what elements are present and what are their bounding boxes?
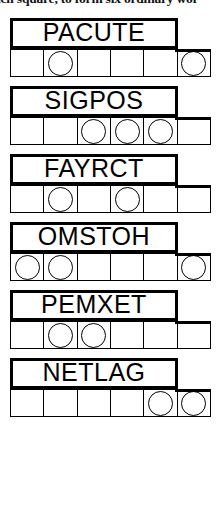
answer-cell-circled[interactable] bbox=[144, 118, 177, 144]
step-tread bbox=[175, 321, 211, 324]
answer-cell-circled[interactable] bbox=[44, 186, 77, 212]
step-riser bbox=[175, 358, 178, 392]
scrambled-word: PACUTE bbox=[43, 20, 146, 45]
scrambled-word-box: PACUTE bbox=[10, 18, 178, 49]
answer-cell-circled[interactable] bbox=[178, 254, 211, 280]
answer-cell-circled[interactable] bbox=[44, 322, 77, 348]
answer-cell[interactable] bbox=[11, 322, 44, 348]
answer-cell-circled[interactable] bbox=[44, 254, 77, 280]
word-block: SIGPOS bbox=[0, 82, 221, 150]
step-tread bbox=[175, 389, 211, 392]
answer-cell-row bbox=[10, 49, 211, 77]
word-block: FAYRCT bbox=[0, 150, 221, 218]
answer-cell[interactable] bbox=[11, 390, 44, 416]
answer-cell[interactable] bbox=[111, 254, 144, 280]
scrambled-word: NETLAG bbox=[42, 360, 145, 385]
scrambled-word: SIGPOS bbox=[45, 88, 144, 113]
answer-cell[interactable] bbox=[44, 118, 77, 144]
step-riser bbox=[175, 222, 178, 256]
step-riser bbox=[175, 86, 178, 120]
answer-cell-row bbox=[10, 253, 211, 281]
answer-cell-circled[interactable] bbox=[111, 186, 144, 212]
answer-cell[interactable] bbox=[11, 186, 44, 212]
scrambled-word-box: FAYRCT bbox=[10, 154, 178, 185]
scrambled-word-box: PEMXET bbox=[10, 290, 178, 321]
step-riser bbox=[175, 290, 178, 324]
answer-cell[interactable] bbox=[144, 322, 177, 348]
answer-cell-row bbox=[10, 185, 211, 213]
puzzle-instruction-text: ach square, to form six ordinary wor bbox=[0, 0, 221, 7]
answer-cell[interactable] bbox=[44, 390, 77, 416]
scrambled-word: PEMXET bbox=[41, 292, 147, 317]
answer-cell[interactable] bbox=[144, 186, 177, 212]
answer-cell[interactable] bbox=[78, 186, 111, 212]
answer-cell-circled[interactable] bbox=[144, 390, 177, 416]
answer-cell-row bbox=[10, 117, 211, 145]
step-riser bbox=[175, 18, 178, 52]
step-tread bbox=[175, 185, 211, 188]
answer-cell-circled[interactable] bbox=[111, 118, 144, 144]
answer-cell[interactable] bbox=[144, 50, 177, 76]
answer-cell-circled[interactable] bbox=[78, 118, 111, 144]
step-tread bbox=[175, 253, 211, 256]
word-block: OMSTOH bbox=[0, 218, 221, 286]
step-tread bbox=[175, 117, 211, 120]
answer-cell[interactable] bbox=[78, 390, 111, 416]
answer-cell-row bbox=[10, 321, 211, 349]
answer-cell[interactable] bbox=[11, 118, 44, 144]
answer-cell-circled[interactable] bbox=[11, 254, 44, 280]
answer-cell-circled[interactable] bbox=[78, 322, 111, 348]
scrambled-word-box: SIGPOS bbox=[10, 86, 178, 117]
answer-cell[interactable] bbox=[11, 50, 44, 76]
word-block: PEMXET bbox=[0, 286, 221, 354]
answer-cell[interactable] bbox=[178, 118, 211, 144]
answer-cell-circled[interactable] bbox=[178, 50, 211, 76]
answer-cell[interactable] bbox=[78, 254, 111, 280]
scrambled-word: OMSTOH bbox=[38, 224, 150, 249]
scrambled-word-box: NETLAG bbox=[10, 358, 178, 389]
scrambled-word-list: PACUTESIGPOSFAYRCTOMSTOHPEMXETNETLAG bbox=[0, 14, 221, 422]
scrambled-word-box: OMSTOH bbox=[10, 222, 178, 253]
answer-cell[interactable] bbox=[178, 322, 211, 348]
answer-cell[interactable] bbox=[178, 186, 211, 212]
answer-cell[interactable] bbox=[78, 50, 111, 76]
jumble-puzzle-page: ach square, to form six ordinary wor PAC… bbox=[0, 0, 221, 519]
answer-cell-circled[interactable] bbox=[178, 390, 211, 416]
answer-cell[interactable] bbox=[144, 254, 177, 280]
scrambled-word: FAYRCT bbox=[44, 156, 144, 181]
answer-cell-row bbox=[10, 389, 211, 417]
step-riser bbox=[175, 154, 178, 188]
answer-cell[interactable] bbox=[111, 50, 144, 76]
answer-cell[interactable] bbox=[111, 322, 144, 348]
step-tread bbox=[175, 49, 211, 52]
answer-cell-circled[interactable] bbox=[44, 50, 77, 76]
answer-cell[interactable] bbox=[111, 390, 144, 416]
word-block: PACUTE bbox=[0, 14, 221, 82]
word-block: NETLAG bbox=[0, 354, 221, 422]
